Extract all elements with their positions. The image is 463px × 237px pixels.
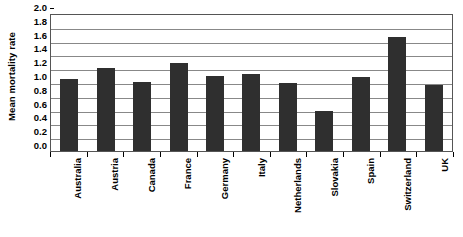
- y-axis-tick-label: 0.0: [34, 141, 47, 151]
- plot-area: [50, 14, 453, 152]
- x-axis-tick-mark: [453, 152, 454, 157]
- x-axis-category-label: Germany: [220, 158, 230, 199]
- y-axis-tick-label: 1.0: [34, 72, 47, 82]
- y-axis-tick-label: 1.2: [34, 58, 47, 68]
- y-axis-tick-label: 1.6: [34, 31, 47, 41]
- bar-chart: Mean mortality rate 0.00.20.40.60.81.01.…: [0, 0, 463, 237]
- x-axis-tick-mark: [87, 152, 88, 157]
- x-axis-tick-mark: [343, 152, 344, 157]
- x-axis-tick-mark: [306, 152, 307, 157]
- x-axis-tick-marks: [50, 152, 453, 157]
- bar-italy: [242, 74, 260, 151]
- bar-slot: [233, 15, 269, 151]
- y-axis-title-text: Mean mortality rate: [6, 31, 17, 120]
- bar-slot: [160, 15, 196, 151]
- x-axis-category-label: Australia: [73, 158, 83, 199]
- bar-germany: [206, 76, 224, 151]
- y-axis-tick-label: 1.4: [34, 45, 47, 55]
- x-axis-category-label: Italy: [257, 158, 267, 177]
- x-label-slot: Netherlands: [270, 158, 307, 234]
- bar-slot: [343, 15, 379, 151]
- y-axis-title: Mean mortality rate: [0, 0, 22, 152]
- y-axis-tick-label: 2.0: [34, 3, 47, 13]
- y-axis-tick-mark: [50, 8, 54, 9]
- bar-slot: [87, 15, 123, 151]
- bar-canada: [133, 82, 151, 151]
- x-axis-tick-mark: [270, 152, 271, 157]
- x-axis-category-labels: AustraliaAustriaCanadaFranceGermanyItaly…: [50, 158, 453, 234]
- x-axis-category-label: Austria: [110, 158, 120, 191]
- x-axis-category-label: France: [183, 158, 193, 189]
- x-axis-category-label: Switzerland: [403, 158, 413, 211]
- bar-spain: [352, 77, 370, 151]
- bar-netherlands: [279, 83, 297, 151]
- bar-slovakia: [315, 111, 333, 151]
- bar-slot: [124, 15, 160, 151]
- x-axis-tick-mark: [160, 152, 161, 157]
- bar-austria: [97, 68, 115, 151]
- x-axis-tick-mark: [123, 152, 124, 157]
- bar-switzerland: [388, 37, 406, 151]
- x-label-slot: Slovakia: [306, 158, 343, 234]
- bar-slot: [379, 15, 415, 151]
- bar-australia: [60, 79, 78, 151]
- bars-layer: [51, 15, 452, 151]
- bar-france: [170, 63, 188, 151]
- x-label-slot: Austria: [87, 158, 124, 234]
- x-label-slot: Italy: [233, 158, 270, 234]
- y-axis-tick-label: 1.8: [34, 17, 47, 27]
- y-axis-tick-label: 0.4: [34, 114, 47, 124]
- x-label-slot: UK: [416, 158, 453, 234]
- x-axis-category-label: Slovakia: [330, 158, 340, 197]
- bar-uk: [425, 85, 443, 151]
- x-axis-tick-mark: [197, 152, 198, 157]
- x-label-slot: France: [160, 158, 197, 234]
- bar-slot: [270, 15, 306, 151]
- x-label-slot: Australia: [50, 158, 87, 234]
- y-axis-tick-label: 0.6: [34, 100, 47, 110]
- x-axis-category-label: Netherlands: [293, 158, 303, 213]
- y-axis-tick-label: 0.2: [34, 127, 47, 137]
- x-axis-tick-mark: [380, 152, 381, 157]
- bar-slot: [416, 15, 452, 151]
- x-label-slot: Switzerland: [380, 158, 417, 234]
- y-axis-tick-labels: 0.00.20.40.60.81.01.21.41.61.82.0: [22, 8, 50, 152]
- bar-slot: [51, 15, 87, 151]
- x-axis-category-label: UK: [440, 158, 450, 172]
- x-label-slot: Canada: [123, 158, 160, 234]
- y-axis-tick-label: 0.8: [34, 86, 47, 96]
- x-label-slot: Spain: [343, 158, 380, 234]
- bar-slot: [197, 15, 233, 151]
- x-label-slot: Germany: [197, 158, 234, 234]
- x-axis-tick-mark: [233, 152, 234, 157]
- bar-slot: [306, 15, 342, 151]
- x-axis-tick-mark: [416, 152, 417, 157]
- x-axis-category-label: Spain: [366, 158, 376, 184]
- x-axis-tick-mark: [50, 152, 51, 157]
- x-axis-category-label: Canada: [147, 158, 157, 192]
